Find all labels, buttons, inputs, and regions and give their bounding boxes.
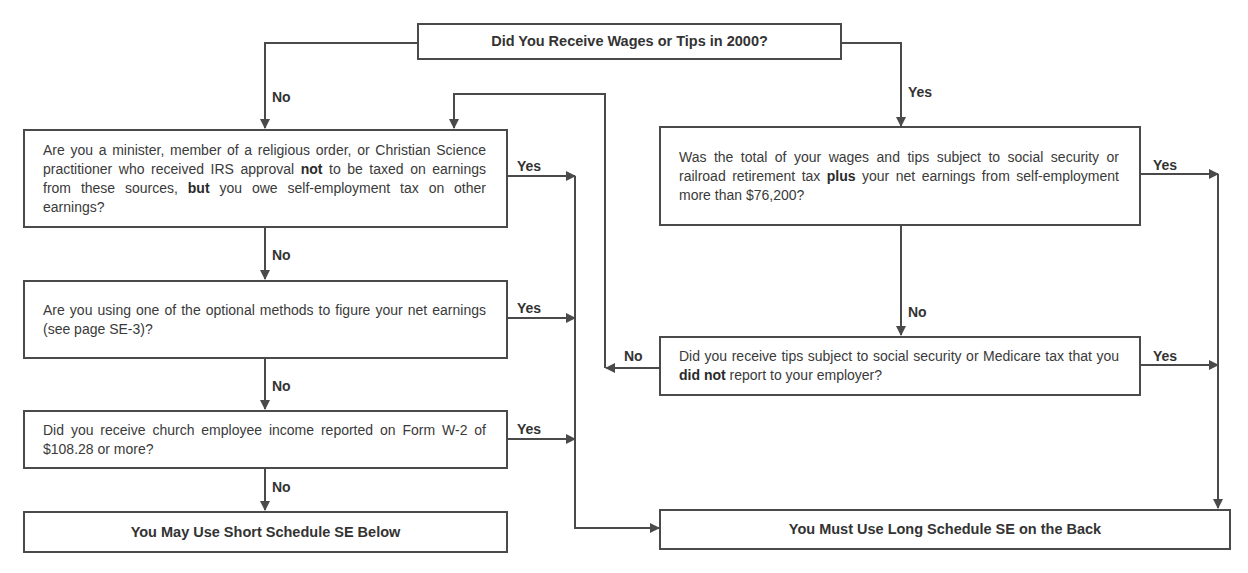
question-wages-threshold-text: Was the total of your wages and tips sub…	[679, 148, 1119, 205]
edge-label-q5-no: No	[624, 348, 643, 364]
edge-label-q1-yes: Yes	[517, 158, 541, 174]
question-minister-text: Are you a minister, member of a religiou…	[43, 141, 486, 217]
start-question-label: Did You Receive Wages or Tips in 2000?	[491, 32, 768, 51]
edge-label-q4-no: No	[908, 304, 927, 320]
edge-label-q2-yes: Yes	[517, 300, 541, 316]
edge-label-start-no: No	[272, 89, 291, 105]
result-long-schedule-box: You Must Use Long Schedule SE on the Bac…	[659, 509, 1231, 550]
question-optional-methods-text: Are you using one of the optional method…	[43, 301, 486, 339]
question-church-income-box: Did you receive church employee income r…	[23, 410, 508, 469]
result-short-schedule-box: You May Use Short Schedule SE Below	[23, 511, 508, 553]
question-church-income-text: Did you receive church employee income r…	[43, 421, 486, 459]
edge-label-q2-no: No	[272, 378, 291, 394]
question-minister-box: Are you a minister, member of a religiou…	[23, 129, 508, 228]
edge-label-start-yes: Yes	[908, 84, 932, 100]
edge-label-q1-no: No	[272, 247, 291, 263]
edge-label-q3-yes: Yes	[517, 421, 541, 437]
question-unreported-tips-text: Did you receive tips subject to social s…	[679, 347, 1119, 385]
question-unreported-tips-box: Did you receive tips subject to social s…	[659, 336, 1141, 396]
result-long-schedule-label: You Must Use Long Schedule SE on the Bac…	[789, 520, 1101, 539]
start-question-box: Did You Receive Wages or Tips in 2000?	[417, 23, 842, 60]
edge-label-q4-yes: Yes	[1153, 157, 1177, 173]
result-short-schedule-label: You May Use Short Schedule SE Below	[131, 523, 401, 542]
edge-label-q5-yes: Yes	[1153, 348, 1177, 364]
edge-label-q3-no: No	[272, 479, 291, 495]
question-optional-methods-box: Are you using one of the optional method…	[23, 280, 508, 359]
question-wages-threshold-box: Was the total of your wages and tips sub…	[659, 126, 1141, 226]
